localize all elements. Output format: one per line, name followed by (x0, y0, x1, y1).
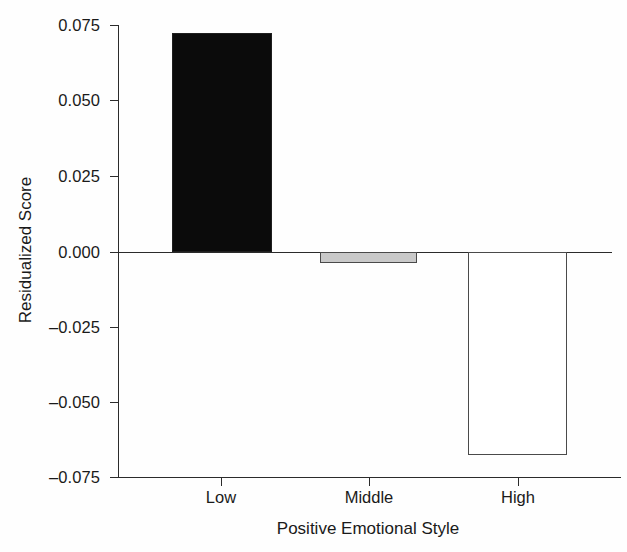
x-axis-tick-low (221, 477, 222, 486)
bar-low (172, 33, 272, 252)
x-axis-label-middle: Middle (299, 489, 439, 506)
bar-chart-figure: 0.075 0.050 0.025 0.000 –0.025 –0.050 –0… (0, 0, 627, 552)
y-axis-tick-n0025 (110, 327, 119, 328)
y-axis-tick-0050 (110, 100, 119, 101)
x-axis-tick-high (518, 477, 519, 486)
x-axis-label-low: Low (151, 489, 291, 506)
x-axis-tick-middle (369, 477, 370, 486)
x-axis-label-high: High (448, 489, 588, 506)
y-axis-line (118, 25, 119, 477)
y-axis-tick-n0050 (110, 402, 119, 403)
y-axis-label-0075: 0.075 (4, 17, 100, 34)
y-axis-tick-0075 (110, 25, 119, 26)
bar-middle (320, 252, 417, 263)
x-axis-title: Positive Emotional Style (118, 520, 618, 537)
y-axis-tick-0025 (110, 176, 119, 177)
y-axis-label-n0075: –0.075 (4, 469, 100, 486)
y-axis-title: Residualized Score (14, 70, 38, 430)
bar-high (468, 252, 567, 455)
